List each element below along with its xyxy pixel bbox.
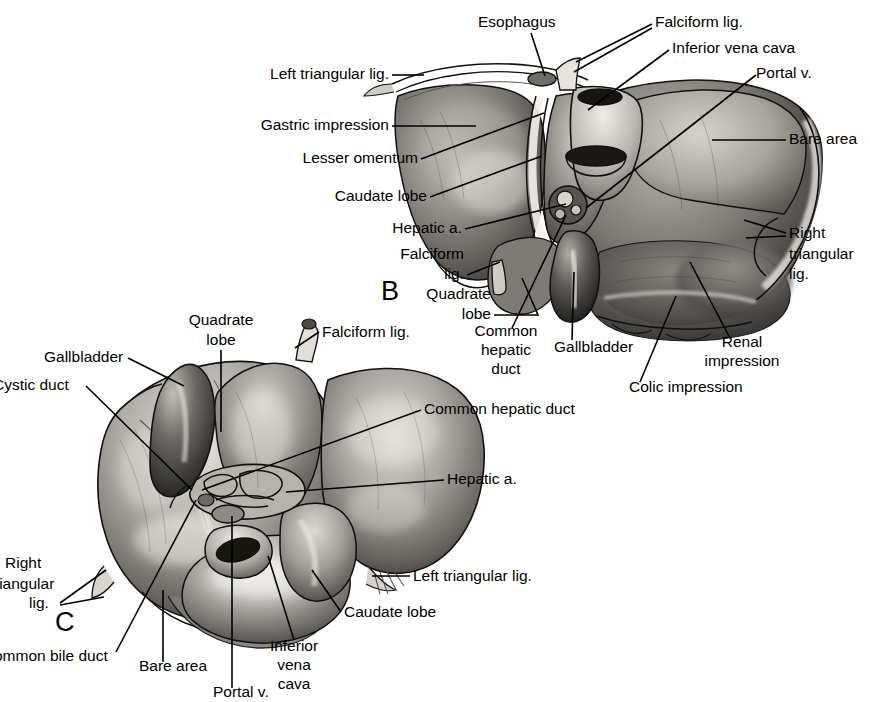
label-c-cystic-duct: Cystic duct xyxy=(0,376,69,393)
label-c-inferior-vena-cava-l3: cava xyxy=(278,675,311,692)
label-esophagus: Esophagus xyxy=(478,13,556,30)
c-common-bile-duct-lumen xyxy=(198,494,214,506)
label-hepatic-a: Hepatic a. xyxy=(392,219,462,236)
label-falciform-lig-line1: Falciform xyxy=(400,245,464,262)
label-right-triangular-l3: lig. xyxy=(789,265,809,282)
b-gastric-impression-hilight xyxy=(452,150,532,214)
label-c-quadrate-lobe-l2: lobe xyxy=(206,331,235,348)
label-common-hepatic-duct-l2: hepatic xyxy=(481,341,531,358)
panel-letter-c: C xyxy=(55,607,75,637)
label-c-portal-v: Portal v. xyxy=(213,683,269,700)
label-quadrate-lobe-l2: lobe xyxy=(462,305,491,322)
label-portal-v: Portal v. xyxy=(756,64,812,81)
b-ivc-upper-lumen xyxy=(578,89,622,105)
label-c-hepatic-a: Hepatic a. xyxy=(447,470,517,487)
b-ivc-lower-lumen xyxy=(566,146,626,166)
label-c-inferior-vena-cava-l2: vena xyxy=(277,656,311,673)
liver-anatomy-figure: Esophagus Falciform lig. Inferior vena c… xyxy=(0,0,870,702)
label-quadrate-lobe-l1: Quadrate xyxy=(426,285,491,302)
label-falciform-lig-top: Falciform lig. xyxy=(655,13,743,30)
c-falciform-lig-tip xyxy=(302,319,316,329)
label-lesser-omentum: Lesser omentum xyxy=(303,149,418,166)
c-left-lobe-hilight-2 xyxy=(346,484,426,532)
label-c-falciform-lig: Falciform lig. xyxy=(322,323,410,340)
panel-letter-b: B xyxy=(381,276,399,306)
b-esophageal-groove xyxy=(528,72,556,86)
c-caudate-lobe xyxy=(280,503,356,601)
label-right-triangular-l1: Right xyxy=(789,224,826,241)
label-c-left-triangular-lig: Left triangular lig. xyxy=(413,567,532,584)
label-bare-area: Bare area xyxy=(789,130,857,147)
c-portal-vein-lumen xyxy=(212,505,244,523)
label-common-hepatic-duct-l1: Common xyxy=(475,322,538,339)
label-caudate-lobe: Caudate lobe xyxy=(335,187,427,204)
label-falciform-lig-line2: lig. xyxy=(444,265,464,282)
c-quadrate-highlight xyxy=(232,388,292,472)
label-c-inferior-vena-cava-l1: Inferior xyxy=(270,637,318,654)
label-c-right-triangular-l1: Right xyxy=(5,554,42,571)
label-gastric-impression: Gastric impression xyxy=(261,116,389,133)
label-common-hepatic-duct-l3: duct xyxy=(491,360,521,377)
label-colic-impression: Colic impression xyxy=(629,378,743,395)
label-c-common-hepatic-duct: Common hepatic duct xyxy=(424,400,575,417)
label-renal-impression-l1: Renal xyxy=(722,333,763,350)
label-inferior-vena-cava: Inferior vena cava xyxy=(672,39,796,56)
label-c-gallbladder: Gallbladder xyxy=(44,348,123,365)
label-c-caudate-lobe: Caudate lobe xyxy=(344,603,436,620)
label-c-bare-area: Bare area xyxy=(139,657,207,674)
label-c-quadrate-lobe-l1: Quadrate xyxy=(189,311,254,328)
b-hepatic-artery-lumen xyxy=(571,205,581,215)
label-c-common-bile-duct: ommon bile duct xyxy=(0,647,108,664)
label-c-right-triangular-l2: riangular xyxy=(0,575,54,592)
b-common-hepatic-duct-lumen xyxy=(555,209,565,219)
label-c-right-triangular-l3: lig. xyxy=(29,594,49,611)
label-right-triangular-l2: triangular xyxy=(789,245,854,262)
label-renal-impression-l2: impression xyxy=(705,352,780,369)
figure-canvas: Esophagus Falciform lig. Inferior vena c… xyxy=(0,0,870,702)
label-gallbladder: Gallbladder xyxy=(554,338,633,355)
label-left-triangular-lig: Left triangular lig. xyxy=(270,65,389,82)
